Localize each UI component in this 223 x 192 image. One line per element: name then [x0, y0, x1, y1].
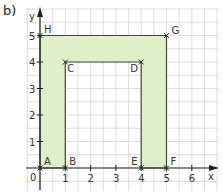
y-tick-label: 5 — [29, 31, 35, 42]
x-tick-label: 2 — [88, 173, 94, 184]
point-label-c: C — [67, 63, 74, 74]
y-axis-arrow-icon — [37, 7, 43, 17]
y-axis-label: y — [29, 11, 35, 22]
x-tick-label: 5 — [164, 173, 170, 184]
origin-label: 0 — [30, 172, 36, 183]
point-label-h: H — [44, 24, 52, 35]
x-tick-label: 3 — [113, 173, 119, 184]
point-label-d: D — [130, 63, 138, 74]
x-tick-label: 4 — [138, 173, 144, 184]
x-axis-label: x — [208, 171, 214, 182]
y-tick-label: 4 — [29, 57, 35, 68]
point-label-e: E — [131, 156, 137, 167]
point-label-b: B — [69, 156, 76, 167]
y-tick-label: 1 — [29, 137, 35, 148]
x-tick-label: 1 — [62, 173, 68, 184]
point-label-g: G — [172, 25, 180, 36]
y-tick-label: 2 — [29, 110, 35, 121]
y-tick-label: 3 — [29, 84, 35, 95]
point-label-a: A — [44, 156, 51, 167]
x-tick-label: 6 — [189, 173, 195, 184]
point-label-f: F — [171, 156, 177, 167]
coordinate-grid-diagram: xy 123456123450 ABCDEFGH — [0, 0, 223, 192]
